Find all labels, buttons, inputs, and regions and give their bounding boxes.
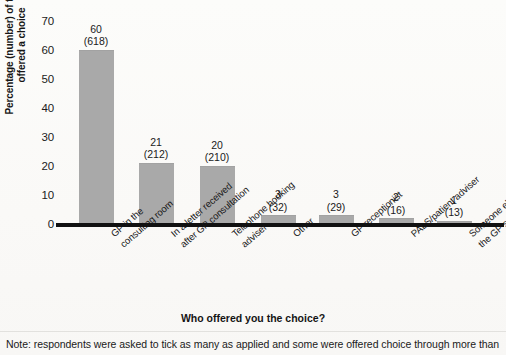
x-tick-label: GP in theconsulting room xyxy=(108,230,126,251)
x-tick-label-line: Someone else in xyxy=(466,230,475,240)
bar-count: (210) xyxy=(187,151,247,163)
bar-count: (212) xyxy=(126,148,186,160)
y-tick-label: 30 xyxy=(28,131,54,143)
bar-percentage: 20 xyxy=(187,139,247,151)
x-tick-label: In a letter receivedafter GP consultatio… xyxy=(168,230,186,251)
x-tick-label-line: GP receptionist xyxy=(348,230,357,240)
x-axis-title: Who offered you the choice? xyxy=(0,312,506,324)
x-tick-label-line: Telephone booking xyxy=(229,230,238,240)
x-tick-label: GP receptionist xyxy=(348,230,357,240)
x-tick-label-line: In a letter received xyxy=(168,230,177,240)
y-tick-label: 10 xyxy=(28,189,54,201)
x-tick-label-line: consulting room xyxy=(117,240,126,250)
x-tick-label: Telephone bookingadviser xyxy=(229,230,247,251)
bar-percentage: 60 xyxy=(66,23,126,35)
footer-divider xyxy=(0,331,506,332)
y-tick-label: 50 xyxy=(28,73,54,85)
bar-percentage: 21 xyxy=(126,136,186,148)
x-tick-label-line: the GP surgery xyxy=(475,240,484,250)
bar-count: (618) xyxy=(66,35,126,47)
x-tick-label: Other xyxy=(290,230,299,240)
y-axis-title-line-1: Percentage (number) of those xyxy=(4,0,16,114)
y-axis-ticks: 010203040506070 xyxy=(18,0,54,355)
chart-note: Note: respondents were asked to tick as … xyxy=(6,337,502,351)
x-tick-label-line: PALS/patient adviser xyxy=(408,230,417,240)
x-tick-label-line: adviser xyxy=(238,240,247,250)
x-tick-label: Someone else inthe GP surgery xyxy=(466,230,484,251)
bar-percentage: 3 xyxy=(306,188,366,200)
y-tick-label: 40 xyxy=(28,102,54,114)
bar xyxy=(79,50,114,224)
bar-value-label: 21(212) xyxy=(126,136,186,161)
x-tick-label: PALS/patient adviser xyxy=(408,230,417,240)
y-tick-label: 70 xyxy=(28,15,54,27)
bar-value-label: 3(29) xyxy=(306,188,366,213)
y-tick-label: 20 xyxy=(28,160,54,172)
bar-count: (29) xyxy=(306,201,366,213)
bar-value-label: 20(210) xyxy=(187,139,247,164)
y-tick-label: 0 xyxy=(28,218,54,230)
x-tick-label-line: Other xyxy=(290,230,299,240)
x-tick-label-line: GP in the xyxy=(108,230,117,240)
y-tick-label: 60 xyxy=(28,44,54,56)
bar-value-label: 60(618) xyxy=(66,23,126,48)
chart-figure: Percentage (number) of those offered a c… xyxy=(0,0,506,355)
x-tick-label-line: after GP consultation xyxy=(177,240,186,250)
